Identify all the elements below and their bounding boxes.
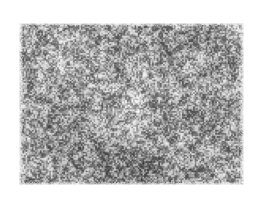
page-margin-bottom [0,186,263,199]
page-margin-right [245,0,263,199]
micrograph-image [18,22,245,186]
micrograph-plate [18,22,245,186]
page-canvas [0,0,263,199]
page-margin-left [0,0,18,199]
page-margin-top [0,0,263,22]
